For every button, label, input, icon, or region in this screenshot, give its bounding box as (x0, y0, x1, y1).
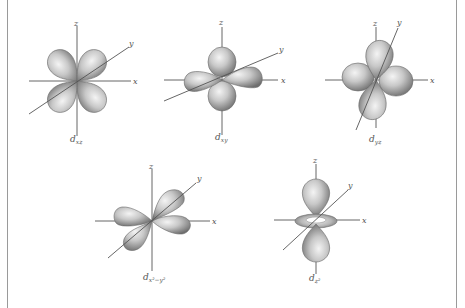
x-axis-label: x (430, 76, 435, 85)
orbital-dyz: z y x dyz (325, 18, 435, 146)
z-axis-label: z (148, 162, 154, 171)
orbital-dz2: z y x dz² (274, 156, 367, 284)
y-axis-label: y (347, 181, 353, 190)
x-axis-label: x (281, 76, 286, 85)
orbital-dx2-y2: z y x dx²−y² (95, 162, 217, 284)
z-axis-label: z (73, 19, 79, 28)
x-axis-label: x (212, 217, 217, 226)
orbital-label-dyz: dyz (369, 134, 382, 146)
orbital-label-dx2-y2: dx²−y² (143, 272, 166, 284)
z-axis-label: z (218, 18, 224, 27)
x-axis-label: x (362, 216, 367, 225)
y-axis-label: y (278, 45, 284, 54)
orbital-dxz: z y x dxz (29, 19, 138, 145)
y-axis (29, 47, 129, 114)
y-axis-label: y (196, 174, 202, 183)
y-axis-label: y (128, 39, 134, 48)
z-axis-label: z (372, 19, 378, 28)
d-orbitals-diagram: z y x dxz z y x dxy z y x dyz (0, 0, 465, 308)
z-axis-label: z (312, 156, 318, 165)
orbital-label-dz2: dz² (309, 273, 321, 284)
y-axis-label: y (396, 18, 402, 27)
orbital-dxy: z y x dxy (164, 18, 286, 144)
x-axis-label: x (133, 77, 138, 86)
